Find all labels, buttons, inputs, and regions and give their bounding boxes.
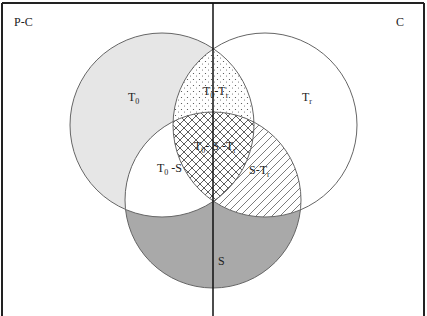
label-t0-s: T0 -S xyxy=(157,161,182,177)
label-p-c: P-C xyxy=(14,15,33,29)
venn-diagram: P-C C T0 Tr T0-Tr T0- S -Tr T0 -S S-Tr S xyxy=(0,0,427,316)
label-s: S xyxy=(218,254,225,268)
label-t0-tr: T0-Tr xyxy=(203,84,229,100)
label-s-tr: S-Tr xyxy=(249,163,270,179)
label-c: C xyxy=(396,15,404,29)
label-t0-s-tr: T0- S -Tr xyxy=(194,139,236,155)
